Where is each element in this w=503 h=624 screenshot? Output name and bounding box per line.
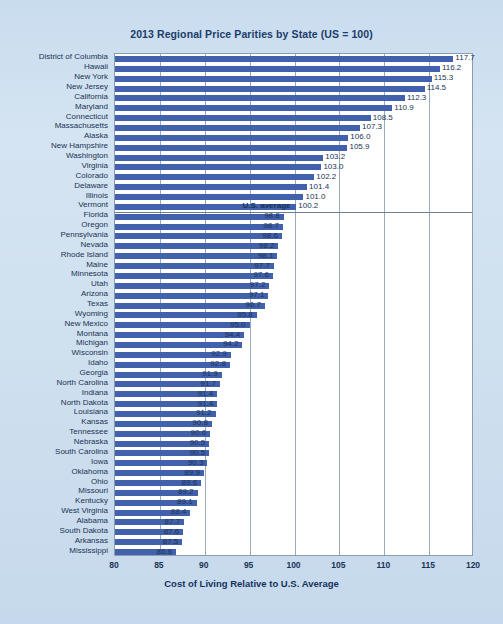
bar-value-label: 91.9 (202, 370, 218, 378)
category-label: Louisiana (74, 408, 108, 416)
us-average-line (115, 212, 472, 213)
bar-value-label: 89.1 (177, 498, 193, 506)
category-label: Mississippi (69, 547, 108, 555)
bar-value-label: 96.7 (245, 301, 261, 309)
bar-value-label: 103.2 (325, 153, 345, 161)
bar (115, 312, 257, 318)
bar-value-label: 98.8 (264, 212, 280, 220)
category-label: New Mexico (64, 320, 108, 328)
bar (115, 145, 347, 151)
category-label: Nevada (80, 241, 108, 249)
x-axis-title: Cost of Living Relative to U.S. Average (0, 578, 503, 589)
bar (115, 125, 360, 131)
bar-value-label: 98.6 (262, 232, 278, 240)
category-label: Hawaii (84, 63, 108, 71)
bar-value-label: 98.2 (259, 242, 275, 250)
bar-value-label: 102.2 (316, 173, 336, 181)
bar-value-label: 117.7 (455, 54, 474, 62)
x-tick-label: 105 (318, 560, 358, 570)
bar-value-label: 95.0 (230, 321, 246, 329)
category-label: Kentucky (75, 497, 108, 505)
x-tick-label: 80 (94, 560, 134, 570)
bar-value-label: 110.9 (394, 104, 413, 112)
bar-value-label: 94.4 (225, 331, 241, 339)
grid-line (429, 54, 430, 555)
category-label: Arkansas (75, 537, 108, 545)
bar-value-label: 90.3 (188, 459, 204, 467)
bar (115, 273, 273, 279)
category-label: North Carolina (56, 379, 108, 387)
bar (115, 105, 392, 111)
category-label: Oklahoma (72, 468, 108, 476)
category-label: Wisconsin (72, 349, 108, 357)
bar-value-label: 87.6 (164, 528, 180, 536)
category-label: New York (74, 73, 108, 81)
category-label: Idaho (88, 359, 108, 367)
category-label: West Virginia (61, 507, 108, 515)
bar-value-label: 87.7 (165, 518, 181, 526)
bar (115, 233, 282, 239)
category-label: Oregon (81, 221, 108, 229)
x-tick-label: 115 (408, 560, 448, 570)
plot-area: 117.7116.2115.3114.5112.3110.9108.5107.3… (114, 53, 473, 556)
bar (115, 194, 303, 200)
bar (115, 115, 371, 121)
bar-value-label: 92.8 (210, 360, 226, 368)
bar-value-label: 114.5 (427, 84, 446, 92)
us-average-annotation: U.S. average (242, 201, 290, 210)
bar-value-label: 86.8 (156, 548, 172, 556)
category-label: Indiana (82, 389, 108, 397)
bar (115, 135, 348, 141)
bar (115, 164, 321, 170)
category-label: Washington (66, 152, 108, 160)
bar (115, 253, 277, 259)
bar-value-label: 98.1 (258, 252, 274, 260)
category-label: Maine (86, 261, 108, 269)
bar (115, 76, 432, 82)
category-label: Tennessee (69, 428, 108, 436)
category-label: New Jersey (66, 83, 108, 91)
bar-value-label: 105.9 (349, 143, 369, 151)
x-tick-label: 120 (453, 560, 493, 570)
bar-value-label: 97.6 (253, 271, 269, 279)
category-label: Rhode Island (61, 251, 108, 259)
bar-value-label: 97.1 (249, 291, 265, 299)
category-label: South Carolina (55, 448, 108, 456)
bar-value-label: 116.2 (442, 64, 461, 72)
bar (115, 184, 307, 190)
bar (115, 293, 268, 299)
chart-sheet: 2013 Regional Price Parities by State (U… (0, 0, 503, 608)
category-label: Utah (91, 280, 108, 288)
category-label: Maryland (75, 103, 108, 111)
bar-value-label: 92.9 (211, 350, 227, 358)
bar-value-label: 91.7 (200, 380, 216, 388)
category-label: Arizona (81, 290, 108, 298)
bar-value-label: 95.8 (237, 311, 253, 319)
bar-value-label: 101.4 (309, 183, 329, 191)
category-label: Kansas (81, 418, 108, 426)
bar (115, 155, 323, 161)
category-label: Michigan (76, 339, 108, 347)
x-tick-label: 90 (184, 560, 224, 570)
category-label: New Hampshire (51, 142, 108, 150)
category-label: North Dakota (61, 399, 108, 407)
bar (115, 66, 440, 72)
x-tick-label: 95 (229, 560, 269, 570)
bar-value-label: 108.5 (373, 114, 393, 122)
category-axis-labels: District of ColumbiaHawaiiNew YorkNew Je… (0, 53, 112, 556)
category-label: Georgia (80, 369, 108, 377)
category-label: Delaware (74, 182, 108, 190)
bar-value-label: 106.0 (350, 133, 370, 141)
category-label: Virginia (81, 162, 108, 170)
bar-value-label: 90.6 (191, 429, 207, 437)
bar-value-label: 87.5 (163, 538, 179, 546)
bar-value-label: 97.7 (254, 262, 270, 270)
bar (115, 243, 278, 249)
bar (115, 303, 265, 309)
grid-line (384, 54, 385, 555)
bar-value-label: 100.2 (298, 202, 318, 210)
x-tick-label: 110 (363, 560, 403, 570)
category-label: Nebraska (74, 438, 108, 446)
x-tick-label: 85 (139, 560, 179, 570)
category-label: California (74, 93, 108, 101)
